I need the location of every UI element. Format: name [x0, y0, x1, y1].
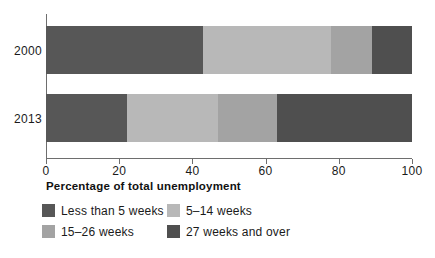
legend-item-less-than-5-weeks: Less than 5 weeks — [42, 204, 167, 218]
legend-swatch-icon — [167, 225, 180, 238]
plot-area: 2000 2013 0 20 40 60 80 100 Percentage o… — [0, 0, 435, 182]
category-label-2013: 2013 — [2, 112, 42, 126]
x-axis-title: Percentage of total unemployment — [46, 180, 241, 192]
x-axis-tick-label: 40 — [172, 164, 212, 178]
legend-label: Less than 5 weeks — [61, 204, 164, 218]
legend-item-5-14-weeks: 5–14 weeks — [167, 204, 347, 218]
x-axis-line — [46, 158, 412, 159]
legend-item-27-weeks-and-over: 27 weeks and over — [167, 225, 347, 239]
legend-swatch-icon — [167, 204, 180, 217]
bar-segment — [331, 26, 371, 74]
chart-legend: Less than 5 weeks 5–14 weeks 15–26 weeks… — [42, 200, 372, 242]
bar-segment — [372, 26, 412, 74]
bar-row — [46, 94, 412, 142]
legend-label: 5–14 weeks — [186, 204, 252, 218]
x-axis-tick-label: 60 — [246, 164, 286, 178]
legend-row: Less than 5 weeks 5–14 weeks — [42, 200, 372, 221]
legend-label: 15–26 weeks — [61, 225, 134, 239]
stacked-bar-chart: 2000 2013 0 20 40 60 80 100 Percentage o… — [0, 0, 435, 258]
bar-segment — [203, 26, 331, 74]
bar-segment — [46, 94, 127, 142]
bar-segment — [277, 94, 412, 142]
bar-segment — [127, 94, 219, 142]
x-axis-tick-label: 0 — [26, 164, 66, 178]
x-axis-tick-label: 80 — [319, 164, 359, 178]
bar-segment — [46, 26, 203, 74]
bar-row — [46, 26, 412, 74]
legend-swatch-icon — [42, 225, 55, 238]
legend-row: 15–26 weeks 27 weeks and over — [42, 221, 372, 242]
legend-swatch-icon — [42, 204, 55, 217]
bar-segment — [218, 94, 277, 142]
x-axis-tick-label: 100 — [392, 164, 432, 178]
legend-label: 27 weeks and over — [186, 225, 290, 239]
legend-item-15-26-weeks: 15–26 weeks — [42, 225, 167, 239]
x-axis-tick-label: 20 — [99, 164, 139, 178]
category-label-2000: 2000 — [2, 44, 42, 58]
